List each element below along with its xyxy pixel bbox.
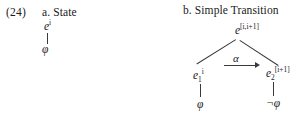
transition-arrow-head-icon	[255, 62, 260, 68]
connector-left-child-stem	[200, 84, 201, 97]
example-number: (24)	[6, 6, 26, 19]
node-event-a-superscript: i	[49, 18, 51, 27]
subfigure-b-heading: b. Simple Transition	[183, 4, 279, 17]
node-event-right-child: e2[i+1]	[266, 67, 290, 79]
node-event-left-child: e1i	[193, 69, 204, 81]
branch-root-to-left-child	[196, 39, 236, 64]
node-event-right-child-subscript: 2	[271, 73, 275, 82]
connector-right-child-stem	[273, 82, 274, 96]
node-event-left-child-superscript: i	[202, 67, 204, 76]
node-event-left-child-subscript: 1	[198, 75, 202, 84]
node-event-root: e[i,i+1]	[235, 24, 259, 36]
transition-arrow-line	[224, 65, 256, 66]
node-formula-a: φ	[42, 43, 48, 55]
transition-label-alpha: α	[233, 52, 239, 64]
node-event-root-superscript: [i,i+1]	[240, 22, 259, 31]
subfigure-a-heading: a. State	[42, 6, 77, 19]
figure-container: (24) a. State ei φ b. Simple Transition …	[0, 0, 306, 118]
node-event-right-child-superscript: [i+1]	[275, 65, 290, 74]
node-event-a: ei	[44, 20, 51, 32]
node-formula-right-leaf: ¬φ	[266, 97, 280, 109]
node-formula-left-leaf: φ	[197, 98, 203, 110]
